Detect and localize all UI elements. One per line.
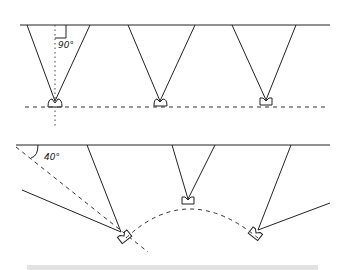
bottom-panel: 40° xyxy=(16,145,330,252)
top-beam-2a xyxy=(128,25,160,101)
bottom-beam-b1 xyxy=(172,145,188,199)
speaker-icon xyxy=(117,230,131,244)
top-beam-1b xyxy=(55,25,90,101)
bottom-beam-a2 xyxy=(22,190,121,232)
bottom-beam-b2 xyxy=(188,145,215,199)
top-beam-2b xyxy=(160,25,195,101)
bottom-beam-c1 xyxy=(258,145,291,230)
angle-label-90: 90° xyxy=(58,40,74,50)
bottom-beam-a1 xyxy=(87,145,121,232)
speaker-arc xyxy=(126,209,258,238)
bottom-beam-c2 xyxy=(258,203,330,230)
speaker-placement-diagram: 90° 40° xyxy=(0,0,340,270)
top-beam-3b xyxy=(266,25,296,100)
top-beam-1a xyxy=(27,25,55,101)
top-panel: 90° xyxy=(20,25,330,127)
footer-bar xyxy=(27,265,318,270)
right-angle-marker xyxy=(55,25,66,38)
angle-arc-marker xyxy=(31,145,38,158)
angle-label-40: 40° xyxy=(44,152,60,162)
top-beam-3a xyxy=(232,25,266,100)
